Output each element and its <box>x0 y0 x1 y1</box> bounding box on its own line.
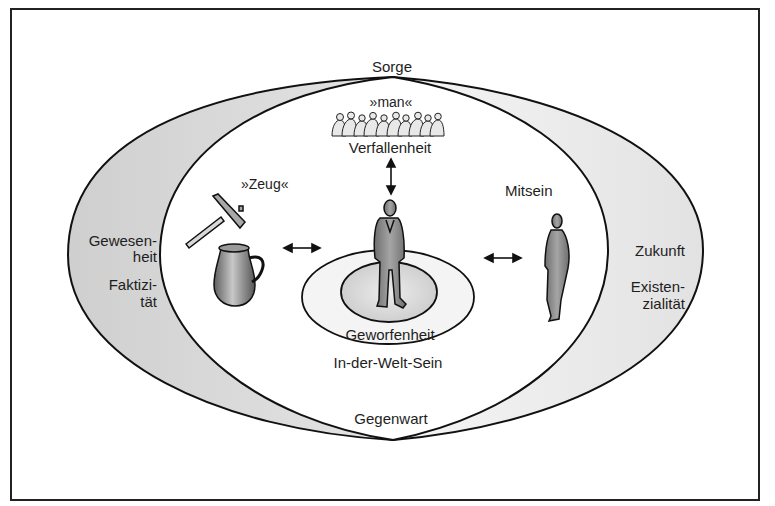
gewesenheit-label-2: heit <box>133 248 157 265</box>
existenzialitaet-label-2: zialität <box>642 295 685 312</box>
gegenwart-label: Gegenwart <box>354 410 427 427</box>
gewesenheit-label-1: Gewesen- <box>89 232 157 249</box>
geworfenheit-label: Geworfenheit <box>345 326 434 343</box>
in-der-welt-sein-label: In-der-Welt-Sein <box>334 354 443 371</box>
faktizitaet-label-2: tät <box>140 293 157 310</box>
sorge-label: Sorge <box>372 58 412 75</box>
mitsein-label: Mitsein <box>505 182 553 199</box>
zeug-label: »Zeug« <box>241 176 288 193</box>
man-label: »man« <box>370 94 413 111</box>
verfallenheit-label: Verfallenheit <box>349 139 432 156</box>
existenzialitaet-label-1: Existen- <box>631 278 685 295</box>
faktizitaet-label-1: Faktizi- <box>109 276 157 293</box>
zukunft-label: Zukunft <box>635 242 685 259</box>
